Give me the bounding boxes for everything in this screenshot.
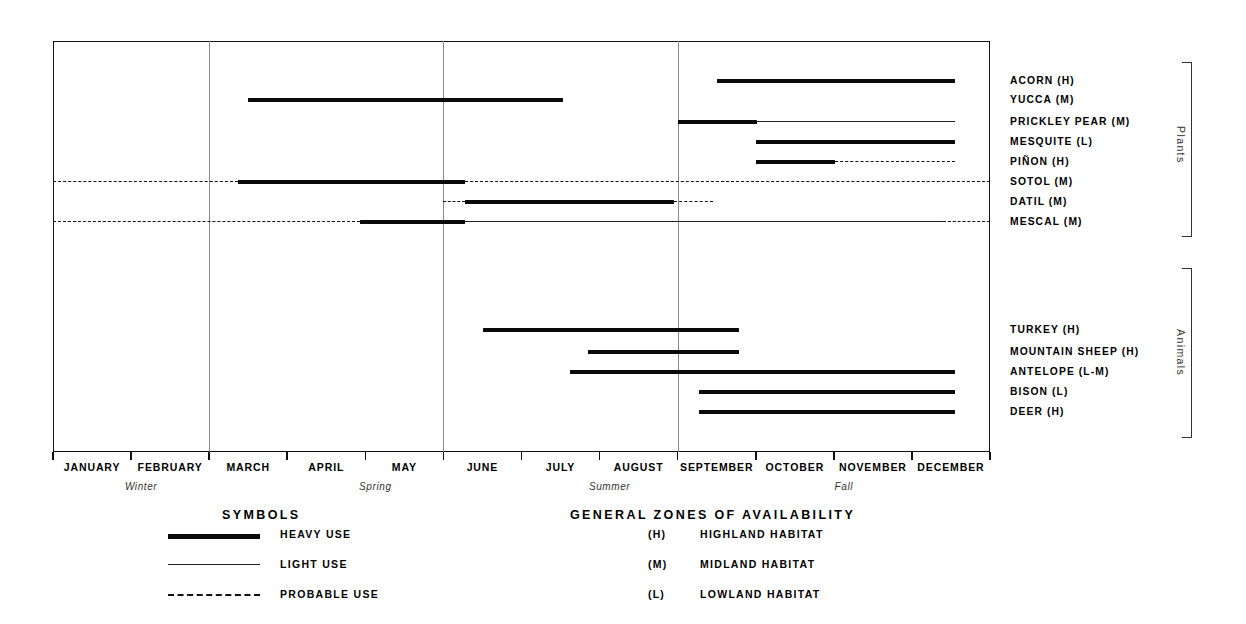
row-label-sotol-m: SOTOL (M) — [1010, 176, 1073, 187]
row-label-datil-m: DATIL (M) — [1010, 196, 1068, 207]
month-label-may: MAY — [365, 461, 443, 473]
bar-segment-probable — [443, 201, 465, 202]
axis-tick-3 — [208, 452, 210, 460]
bar-segment-heavy — [238, 180, 465, 185]
season-label-fall: Fall — [814, 481, 874, 492]
symbols-legend-title: SYMBOLS — [222, 508, 301, 522]
row-label-deer-h: DEER (H) — [1010, 406, 1065, 417]
zone-code-h: (H) — [648, 528, 666, 540]
season-label-spring: Spring — [345, 481, 405, 492]
axis-tick-7 — [521, 452, 523, 460]
bar-segment-probable — [674, 201, 713, 202]
gridline-month-9 — [678, 41, 679, 452]
row-label-mescal-m: MESCAL (M) — [1010, 216, 1083, 227]
bar-segment-heavy — [248, 98, 563, 103]
row-label-prickley-pear-m: PRICKLEY PEAR (M) — [1010, 116, 1130, 127]
bar-segment-heavy — [717, 79, 955, 84]
row-label-turkey-h: TURKEY (H) — [1010, 324, 1080, 335]
month-label-august: AUGUST — [600, 461, 678, 473]
bar-segment-probable — [53, 221, 360, 222]
legend-label-probable: PROBABLE USE — [280, 588, 379, 600]
zone-code-l: (L) — [648, 588, 665, 600]
axis-tick-12 — [911, 452, 913, 460]
row-label-bison-l: BISON (L) — [1010, 386, 1069, 397]
bar-segment-heavy — [360, 220, 465, 225]
month-label-january: JANUARY — [53, 461, 131, 473]
month-label-june: JUNE — [443, 461, 521, 473]
season-label-winter: Winter — [111, 481, 171, 492]
bar-segment-probable — [835, 161, 955, 162]
month-label-december: DECEMBER — [912, 461, 990, 473]
bar-segment-heavy — [483, 328, 739, 333]
axis-tick-5 — [365, 452, 367, 460]
month-label-october: OCTOBER — [756, 461, 834, 473]
axis-tick-6 — [443, 452, 445, 460]
bar-segment-heavy — [588, 350, 739, 355]
axis-tick-4 — [286, 452, 288, 460]
bar-segment-heavy — [465, 200, 674, 205]
month-label-april: APRIL — [287, 461, 365, 473]
row-label-yucca-m: YUCCA (M) — [1010, 94, 1074, 105]
group-label-plants: Plants — [1175, 126, 1187, 164]
season-label-summer: Summer — [580, 481, 640, 492]
bar-segment-heavy — [756, 160, 836, 165]
legend-swatch-heavy — [168, 534, 260, 539]
axis-tick-2 — [130, 452, 132, 460]
zone-label-h: HIGHLAND HABITAT — [700, 528, 824, 540]
month-label-september: SEPTEMBER — [678, 461, 756, 473]
axis-tick-1 — [52, 452, 54, 460]
row-label-mountain-sheep-h: MOUNTAIN SHEEP (H) — [1010, 346, 1139, 357]
zone-code-m: (M) — [648, 558, 667, 570]
bar-segment-probable — [53, 181, 238, 182]
row-label-mesquite-l: MESQUITE (L) — [1010, 136, 1093, 147]
legend-swatch-light — [168, 564, 260, 565]
zones-legend-title: GENERAL ZONES OF AVAILABILITY — [570, 508, 855, 522]
legend-label-light: LIGHT USE — [280, 558, 348, 570]
group-label-animals: Animals — [1175, 329, 1187, 376]
row-label-antelope-l-m: ANTELOPE (L-M) — [1010, 366, 1109, 377]
month-label-november: NOVEMBER — [834, 461, 912, 473]
bar-segment-light — [757, 121, 955, 122]
month-label-july: JULY — [522, 461, 600, 473]
legend-swatch-probable — [168, 594, 260, 596]
bar-segment-heavy — [699, 410, 955, 415]
bar-segment-probable — [943, 221, 990, 222]
axis-tick-11 — [833, 452, 835, 460]
row-label-acorn-h: ACORN (H) — [1010, 75, 1075, 86]
bar-segment-heavy — [756, 140, 955, 145]
month-label-february: FEBRUARY — [131, 461, 209, 473]
gridline-month-3 — [209, 41, 210, 452]
axis-tick-9 — [677, 452, 679, 460]
bar-segment-probable — [465, 181, 990, 182]
legend-label-heavy: HEAVY USE — [280, 528, 351, 540]
axis-tick-10 — [755, 452, 757, 460]
zone-label-m: MIDLAND HABITAT — [700, 558, 815, 570]
chart-canvas: JANUARYFEBRUARYMARCHAPRILMAYJUNEJULYAUGU… — [0, 0, 1246, 624]
gridline-month-6 — [443, 41, 444, 452]
axis-tick-13 — [989, 452, 991, 460]
bar-segment-heavy — [570, 370, 955, 375]
bar-segment-light — [465, 221, 943, 222]
month-label-march: MARCH — [209, 461, 287, 473]
zone-label-l: LOWLAND HABITAT — [700, 588, 821, 600]
axis-tick-8 — [599, 452, 601, 460]
bar-segment-heavy — [699, 390, 955, 395]
bar-segment-heavy — [678, 120, 758, 125]
row-label-piñon-h: PIÑON (H) — [1010, 156, 1070, 167]
